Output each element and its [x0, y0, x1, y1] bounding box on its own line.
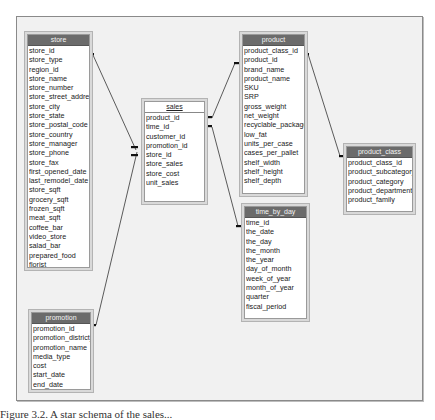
field-recyclable-package: recyclable_package [244, 120, 304, 129]
table-time-by-day[interactable]: time_by_day time_idthe_datethe_daythe_mo… [244, 206, 307, 319]
field-prepared-food: prepared_food [29, 251, 89, 260]
field-time-id: time_id [246, 218, 306, 227]
table-title: sales [145, 102, 204, 113]
field-list: product_class_idproduct_subcategoryprodu… [347, 158, 412, 207]
table-title: time_by_day [245, 207, 306, 218]
field-promotion-district-id: promotion_district_id [33, 333, 90, 342]
table-promotion[interactable]: promotion promotion_idpromotion_district… [31, 312, 91, 390]
field-store-cost: store_cost [146, 169, 204, 178]
field-product-id: product_id [146, 113, 204, 122]
field-end-date: end_date [33, 380, 90, 389]
field-units-per-case: units_per_case [244, 139, 304, 148]
field-product-subcategory: product_subcategory [348, 167, 412, 176]
field-the-month: the_month [246, 246, 306, 255]
field-fiscal-period: fiscal_period [246, 302, 306, 311]
field-salad-bar: salad_bar [29, 241, 89, 250]
field-store-fax: store_fax [29, 158, 89, 167]
table-product[interactable]: product product_class_idproduct_idbrand_… [242, 34, 305, 194]
field-list: store_idstore_typeregion_idstore_namesto… [28, 46, 89, 272]
field-product-family: product_family [348, 195, 412, 204]
field-list: product_class_idproduct_idbrand_nameprod… [243, 46, 304, 188]
field-low-fat: low_fat [244, 130, 304, 139]
field-promotion-id: promotion_id [33, 324, 90, 333]
field-the-day: the_day [246, 237, 306, 246]
field-shelf-width: shelf_width [244, 158, 304, 167]
field-promotion-name: promotion_name [33, 343, 90, 352]
field-store-id: store_id [146, 150, 204, 159]
field-unit-sales: unit_sales [146, 178, 204, 187]
field-store-type: store_type [29, 55, 89, 64]
field-day-of-month: day_of_month [246, 264, 306, 273]
field-cost: cost [33, 361, 90, 370]
field-customer-id: customer_id [146, 132, 204, 141]
field-florist: florist [29, 260, 89, 269]
field-product-name: product_name [244, 74, 304, 83]
field-coffee-bar: coffee_bar [29, 223, 89, 232]
field-meat-sqft: meat_sqft [29, 213, 89, 222]
field-cases-per-pallet: cases_per_pallet [244, 148, 304, 157]
field-product-department: product_department [348, 186, 412, 195]
field-store-id: store_id [29, 46, 89, 55]
field-shelf-height: shelf_height [244, 167, 304, 176]
field-store-phone: store_phone [29, 148, 89, 157]
field-list: promotion_idpromotion_district_idpromoti… [32, 324, 90, 392]
field-product-class-id: product_class_id [348, 158, 412, 167]
field-region-id: region_id [29, 65, 89, 74]
field-the-year: the_year [246, 255, 306, 264]
field-store-sqft: store_sqft [29, 185, 89, 194]
field-list: product_idtime_idcustomer_idpromotion_id… [145, 113, 204, 190]
field-net-weight: net_weight [244, 111, 304, 120]
field-the-date: the_date [246, 227, 306, 236]
field-promotion-id: promotion_id [146, 141, 204, 150]
field-brand-name: brand_name [244, 65, 304, 74]
field-store-street-address: store_street_address [29, 92, 89, 101]
table-store[interactable]: store store_idstore_typeregion_idstore_n… [27, 34, 90, 268]
field-store-number: store_number [29, 83, 89, 92]
field-month-of-year: month_of_year [246, 283, 306, 292]
field-video-store: video_store [29, 232, 89, 241]
field-media-type: media_type [33, 352, 90, 361]
field-product-id: product_id [244, 55, 304, 64]
table-product-class[interactable]: product_class product_class_idproduct_su… [346, 146, 413, 212]
table-title: product [243, 35, 304, 46]
field-first-opened-date: first_opened_date [29, 167, 89, 176]
field-store-postal-code: store_postal_code [29, 120, 89, 129]
table-title: promotion [32, 313, 90, 324]
figure-caption: Figure 3.2. A star schema of the sales..… [0, 408, 172, 420]
field-store-name: store_name [29, 74, 89, 83]
field-frozen-sqft: frozen_sqft [29, 204, 89, 213]
field-start-date: start_date [33, 370, 90, 379]
field-product-category: product_category [348, 177, 412, 186]
field-product-class-id: product_class_id [244, 46, 304, 55]
field-store-country: store_country [29, 130, 89, 139]
field-store-sales: store_sales [146, 159, 204, 168]
field-gross-weight: gross_weight [244, 102, 304, 111]
field-list: time_idthe_datethe_daythe_monththe_yeard… [245, 218, 306, 314]
field-sku: SKU [244, 83, 304, 92]
field-store-city: store_city [29, 102, 89, 111]
field-grocery-sqft: grocery_sqft [29, 195, 89, 204]
field-quarter: quarter [246, 292, 306, 301]
table-title: product_class [347, 147, 412, 158]
table-sales[interactable]: sales product_idtime_idcustomer_idpromot… [144, 101, 205, 202]
field-srp: SRP [244, 92, 304, 101]
field-week-of-year: week_of_year [246, 274, 306, 283]
field-time-id: time_id [146, 122, 204, 131]
field-shelf-depth: shelf_depth [244, 176, 304, 185]
field-store-manager: store_manager [29, 139, 89, 148]
field-last-remodel-date: last_remodel_date [29, 176, 89, 185]
field-store-state: store_state [29, 111, 89, 120]
table-title: store [28, 35, 89, 46]
